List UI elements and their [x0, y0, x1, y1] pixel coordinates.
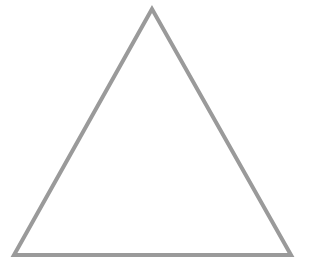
triangle-shape	[14, 9, 291, 255]
diagram-canvas	[0, 0, 315, 270]
triangle-svg	[0, 0, 315, 270]
